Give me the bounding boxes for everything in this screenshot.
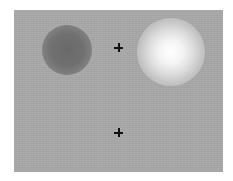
lower-fixation-cross-icon <box>114 128 123 137</box>
bright-blob <box>137 18 205 86</box>
stimulus-field <box>14 10 223 172</box>
dark-blob <box>42 25 92 75</box>
upper-fixation-cross-icon <box>114 43 123 52</box>
